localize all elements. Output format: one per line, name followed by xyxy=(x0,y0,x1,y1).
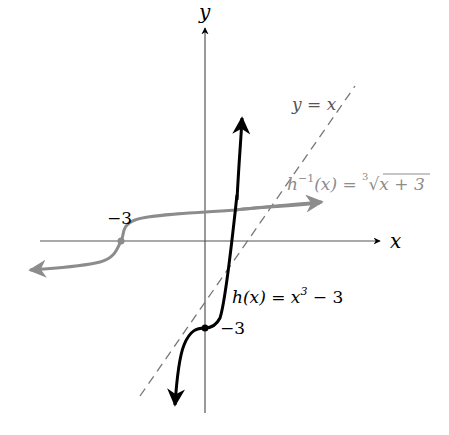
h-y-intercept-point xyxy=(202,325,209,332)
h-function-label: h(x) = x3 − 3 xyxy=(232,285,343,307)
identity-label: y = x xyxy=(291,94,337,114)
function-inverse-graph: y x y = x −3 −3 h(x) = x3 − 3 h−1(x) = 3… xyxy=(0,0,449,435)
inverse-curve xyxy=(30,203,320,270)
y-axis-label: y xyxy=(198,0,211,24)
inverse-x-intercept-point xyxy=(118,238,125,245)
x-tick-neg3: −3 xyxy=(107,208,132,228)
inverse-arrow-right xyxy=(235,202,322,210)
h-curve xyxy=(175,195,237,405)
x-axis-label: x xyxy=(390,229,401,253)
h-arrow-up xyxy=(237,118,242,200)
y-tick-neg3: −3 xyxy=(220,318,245,338)
